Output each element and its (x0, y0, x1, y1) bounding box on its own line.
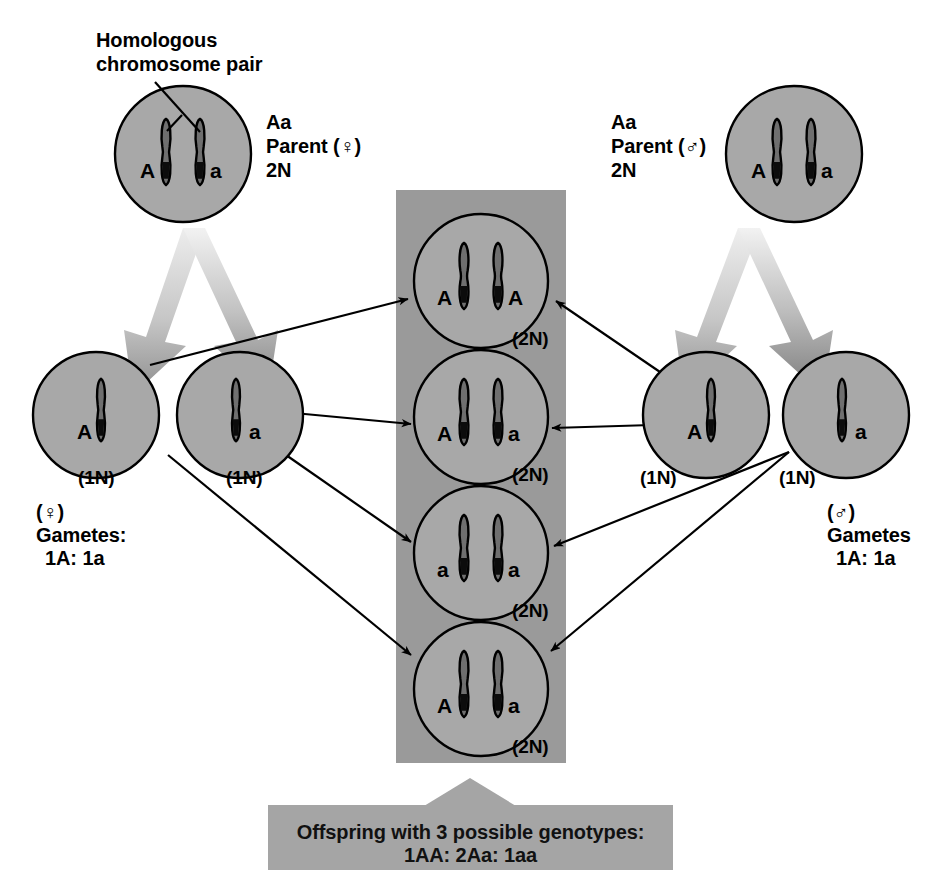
diagram-canvas: Homologous chromosome pair A a Aa Parent… (0, 0, 938, 876)
offspring-1-allele-left: A (437, 285, 452, 311)
female-parent-ploidy: 2N (266, 158, 291, 182)
male-gamete-A-allele: A (687, 419, 702, 445)
homologous-pair-annotation: Homologous chromosome pair (96, 28, 262, 77)
male-gamete-a-ploidy: (1N) (779, 466, 816, 489)
offspring-1-ploidy: (2N) (512, 327, 549, 350)
male-parent-genotype: Aa (611, 110, 636, 134)
female-gametes-sex-symbol: (♀) (36, 500, 64, 524)
male-gametes-ratio: 1A: 1a (836, 546, 895, 570)
offspring-4-ploidy: (2N) (512, 735, 549, 758)
leader-line-main (155, 82, 200, 132)
offspring-3-ploidy: (2N) (512, 599, 549, 622)
annotation-leader-layer (0, 0, 938, 876)
female-parent-allele-right: a (210, 158, 222, 184)
male-gametes-sex-symbol: (♂) (827, 500, 855, 524)
male-parent-role: Parent (♂) (611, 134, 706, 158)
offspring-2-allele-left: A (437, 421, 452, 447)
female-gamete-a-ploidy: (1N) (226, 466, 263, 489)
offspring-1-allele-right: A (508, 285, 523, 311)
male-parent-allele-left: A (751, 158, 766, 184)
female-parent-allele-left: A (140, 158, 155, 184)
female-parent-role: Parent (♀) (266, 134, 361, 158)
female-gamete-A-ploidy: (1N) (78, 466, 115, 489)
female-gametes-ratio: 1A: 1a (45, 546, 104, 570)
female-gamete-A-allele: A (77, 419, 92, 445)
male-gamete-A-ploidy: (1N) (640, 466, 677, 489)
female-parent-genotype: Aa (266, 110, 291, 134)
male-gamete-a-allele: a (855, 419, 867, 445)
caption-line-1: Offspring with 3 possible genotypes: (268, 820, 673, 844)
male-parent-allele-right: a (821, 158, 833, 184)
offspring-2-allele-right: a (508, 421, 520, 447)
offspring-4-allele-right: a (508, 693, 520, 719)
male-parent-ploidy: 2N (611, 158, 636, 182)
caption-line-2: 1AA: 2Aa: 1aa (268, 843, 673, 867)
offspring-2-ploidy: (2N) (512, 463, 549, 486)
male-gametes-title: Gametes (827, 523, 911, 547)
leader-line-fork-left (167, 115, 182, 131)
female-gamete-a-allele: a (249, 419, 261, 445)
female-gametes-title: Gametes: (36, 523, 126, 547)
offspring-3-allele-right: a (508, 557, 520, 583)
offspring-3-allele-left: a (437, 557, 449, 583)
offspring-4-allele-left: A (437, 693, 452, 719)
